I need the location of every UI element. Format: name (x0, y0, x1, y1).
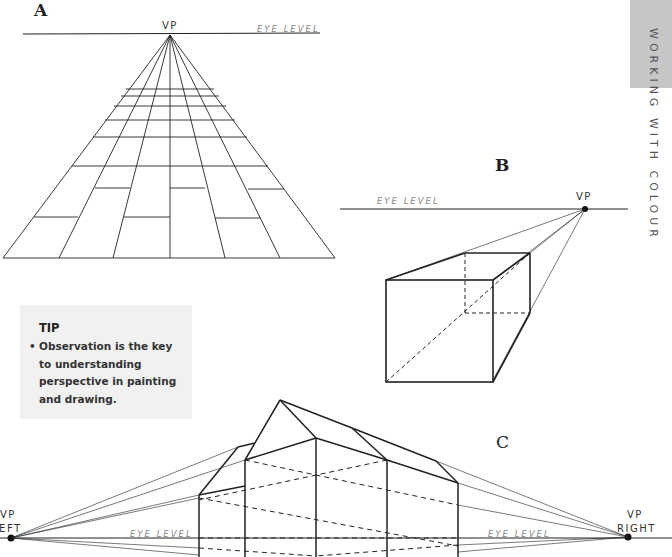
perspective-drawings (0, 0, 672, 557)
diagram-b-drawing (340, 206, 628, 382)
diagram-a-drawing (3, 33, 335, 258)
diagram-c-drawing (0, 400, 672, 557)
